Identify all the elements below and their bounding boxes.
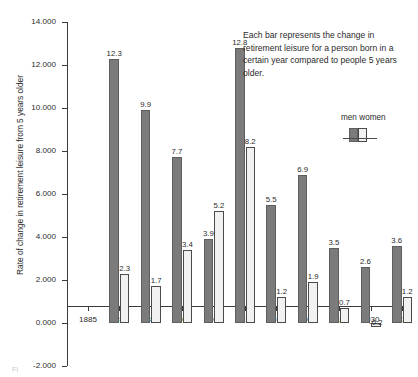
bar-label-women-1890: 2.3 xyxy=(110,264,140,273)
bar-women-1905 xyxy=(214,211,224,323)
bar-men-1905 xyxy=(204,239,214,323)
bar-men-1935 xyxy=(392,246,402,323)
bar-label-men-1920: 6.9 xyxy=(288,165,318,174)
bar-label-men-1925: 3.5 xyxy=(319,238,349,247)
bar-label-men-1890: 12.3 xyxy=(99,49,129,58)
y-tick-label: 6.000 xyxy=(36,189,56,198)
y-tick xyxy=(62,237,67,238)
y-tick xyxy=(62,194,67,195)
caption-fragment: Fi xyxy=(12,365,42,373)
bar-women-1895 xyxy=(151,286,161,323)
legend-labels: men women xyxy=(341,113,403,122)
y-tick-label: 2.000 xyxy=(36,275,56,284)
legend-swatches xyxy=(349,124,367,142)
bar-men-1925 xyxy=(329,248,339,323)
bar-label-men-1930: 2.6 xyxy=(350,257,380,266)
annotation-text: Each bar represents the change in retire… xyxy=(243,29,415,79)
bar-label-women-1930: -0.2 xyxy=(361,318,391,327)
y-tick xyxy=(62,22,67,23)
y-tick-label: 4.000 xyxy=(36,232,56,241)
bar-label-women-1920: 1.9 xyxy=(298,272,328,281)
y-tick xyxy=(62,108,67,109)
bar-label-women-1915: 1.2 xyxy=(267,287,297,296)
bar-label-men-1935: 3.6 xyxy=(382,236,412,245)
bar-label-women-1905: 5.2 xyxy=(204,201,234,210)
y-tick-label: 10.000 xyxy=(31,103,56,112)
legend-baseline xyxy=(343,138,377,139)
bar-women-1925 xyxy=(340,308,350,323)
bar-label-women-1925: 0.7 xyxy=(329,298,359,307)
y-axis-title: Rate of change in retirement leisure fro… xyxy=(15,46,25,304)
bar-women-1910 xyxy=(246,147,256,323)
x-tick xyxy=(88,306,89,311)
bar-chart: Rate of change in retirement leisure fro… xyxy=(0,0,418,377)
bar-men-1910 xyxy=(235,48,245,323)
y-tick-label: 14.000 xyxy=(31,17,56,26)
legend-swatch-men xyxy=(349,128,358,142)
x-tick xyxy=(371,306,372,311)
y-tick xyxy=(62,280,67,281)
y-tick-label: 0.000 xyxy=(36,318,56,327)
bar-label-women-1910: 8.2 xyxy=(235,137,265,146)
legend: men women xyxy=(341,113,403,143)
bar-women-1935 xyxy=(403,297,413,323)
bar-men-1930 xyxy=(361,267,371,323)
bar-women-1890 xyxy=(120,274,130,323)
y-tick xyxy=(62,65,67,66)
legend-label-men: men xyxy=(341,113,357,122)
legend-label-women: women xyxy=(359,113,385,122)
bar-label-women-1900: 3.4 xyxy=(172,240,202,249)
bar-men-1895 xyxy=(141,110,151,323)
bar-label-women-1935: 1.2 xyxy=(392,287,418,296)
bar-men-1915 xyxy=(266,205,276,323)
bar-label-men-1915: 5.5 xyxy=(256,195,286,204)
y-tick-label: 8.000 xyxy=(36,146,56,155)
bar-label-men-1895: 9.9 xyxy=(131,100,161,109)
bar-men-1920 xyxy=(298,175,308,323)
legend-swatch-women xyxy=(358,128,367,142)
bar-label-women-1895: 1.7 xyxy=(141,276,171,285)
bar-women-1900 xyxy=(183,250,193,323)
bar-label-men-1900: 7.7 xyxy=(162,147,192,156)
bar-women-1920 xyxy=(308,282,318,323)
y-tick xyxy=(62,151,67,152)
bar-women-1915 xyxy=(277,297,287,323)
y-tick-label: 12.000 xyxy=(31,60,56,69)
bar-men-1890 xyxy=(109,59,119,323)
y-tick xyxy=(62,366,67,367)
